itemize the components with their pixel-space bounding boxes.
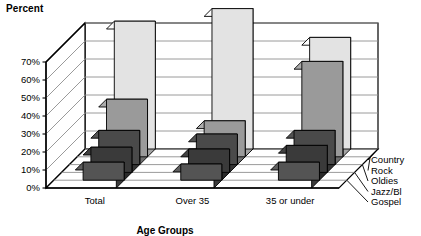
y-tick-label: 40% — [21, 110, 41, 121]
legend-label-rock: Rock — [371, 165, 393, 176]
bar-chart-plot: 0%10%20%30%40%50%60%70% TotalOver 3535 o… — [0, 0, 421, 236]
legend-label-oldies: Oldies — [371, 175, 398, 186]
x-tick-label: Over 35 — [176, 195, 210, 206]
y-tick-label: 0% — [26, 182, 40, 193]
x-axis-labels: TotalOver 3535 or under — [85, 195, 315, 206]
legend-label-country: Country — [371, 154, 405, 165]
x-tick-label: Total — [85, 195, 105, 206]
y-tick-label: 50% — [21, 92, 41, 103]
y-tick-label: 20% — [21, 146, 41, 157]
y-tick-label: 10% — [21, 164, 41, 175]
chart-container: Percent 0%10%20%30%40%50%60%70% TotalOve… — [0, 0, 421, 236]
legend-label-gospel: Gospel — [371, 196, 401, 207]
x-axis-title: Age Groups — [0, 225, 330, 236]
y-tick-label: 70% — [21, 56, 41, 67]
y-tick-label: 60% — [21, 74, 41, 85]
x-tick-label: 35 or under — [266, 195, 315, 206]
y-tick-label: 30% — [21, 128, 41, 139]
y-axis-ticks: 0%10%20%30%40%50%60%70% — [21, 56, 46, 193]
legend-label-jazz-bl: Jazz/Bl — [371, 186, 402, 197]
